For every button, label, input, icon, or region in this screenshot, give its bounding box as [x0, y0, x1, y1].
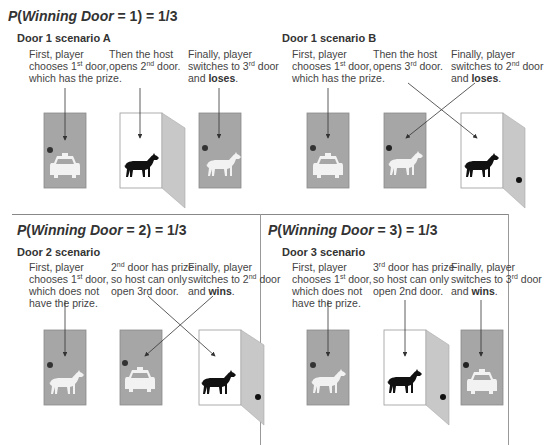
door-closed	[384, 113, 426, 188]
scenario-1b-subtitle: Door 1 scenario B	[282, 32, 376, 44]
scenario-1a-doors	[44, 88, 241, 208]
title-prefix: P	[17, 222, 26, 238]
title-prefix: P	[268, 222, 277, 238]
car-icon	[125, 367, 155, 392]
scenario-1a-subtitle: Door 1 scenario A	[17, 32, 111, 44]
right-edge-divider	[508, 214, 509, 445]
goat-icon	[389, 151, 423, 175]
arrow-icon	[408, 83, 477, 138]
door-open	[384, 330, 449, 425]
door-knob-icon	[47, 147, 53, 153]
door-open	[120, 113, 185, 208]
door-knob-icon	[122, 360, 128, 366]
goat-icon	[125, 153, 159, 177]
scenario-3-doors	[307, 300, 503, 425]
goat-icon	[202, 370, 236, 394]
arrow-icon	[406, 83, 475, 138]
door-knob-icon	[47, 362, 53, 368]
scenario-3-subtitle: Door 3 scenario	[282, 246, 365, 258]
scenario-3-step-3: Finally, player switches to 3rd door and…	[451, 261, 546, 297]
door-closed	[307, 330, 349, 405]
goat-icon	[207, 152, 241, 176]
door-closed	[461, 330, 503, 405]
title-var: Winning Door	[282, 222, 374, 238]
goat-icon	[465, 153, 499, 177]
goat-icon	[50, 370, 84, 394]
door-closed	[44, 113, 86, 188]
goat-icon	[388, 369, 422, 393]
door-knob-icon	[202, 145, 208, 151]
door-knob-icon	[386, 145, 392, 151]
scenario-2-step-1: First, player chooses 1st door, which do…	[29, 261, 124, 309]
car-icon	[467, 369, 497, 394]
car-icon	[50, 153, 80, 178]
title-var: Winning Door	[31, 222, 123, 238]
arrow-icon	[145, 296, 213, 356]
scenario-1b-doors	[307, 83, 525, 208]
goat-icon	[312, 369, 346, 393]
door-knob-icon	[310, 362, 316, 368]
scenario-2-doors	[44, 296, 264, 425]
door-knob-icon	[440, 394, 446, 400]
title-suffix: = 2) = 1/3	[123, 222, 187, 238]
door-closed	[120, 330, 162, 405]
door-open	[199, 330, 264, 425]
scenario-1a-step-3: Finally, player switches to 3rd door and…	[188, 48, 283, 84]
scenario-2-subtitle: Door 2 scenario	[17, 246, 100, 258]
door-knob-icon	[310, 145, 316, 151]
door-knob-icon	[516, 177, 522, 183]
vertical-divider	[260, 214, 261, 445]
door-open	[461, 113, 525, 208]
car-icon	[313, 153, 343, 178]
door-closed	[44, 330, 86, 405]
door-closed	[199, 113, 241, 188]
arrow-icon	[148, 296, 215, 356]
scenario-2-step-3: Finally, player switches to 2nd door and…	[188, 261, 283, 297]
title-var: Winning Door	[22, 8, 114, 24]
title-prefix: P	[8, 8, 17, 24]
panel-2-title: P(Winning Door = 2) = 1/3	[17, 222, 186, 238]
panel-1-title: P(Winning Door = 1) = 1/3	[8, 8, 177, 24]
door-closed	[307, 113, 349, 188]
scenario-1b-step-3: Finally, player switches to 2nd door and…	[451, 48, 546, 84]
title-suffix: = 3) = 1/3	[374, 222, 438, 238]
panel-3-title: P(Winning Door = 3) = 1/3	[268, 222, 437, 238]
title-suffix: = 1) = 1/3	[114, 8, 178, 24]
door-knob-icon	[463, 362, 469, 368]
